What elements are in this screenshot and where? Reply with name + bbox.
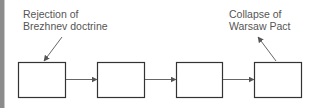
flow-box-1	[19, 63, 66, 98]
annotation-line-1: Collapse of	[229, 8, 290, 20]
annotation-line-1: Rejection of	[23, 8, 108, 20]
annotation-line-2: Brezhnev doctrine	[23, 20, 108, 32]
annotation-warsaw-pact: Collapse of Warsaw Pact	[229, 8, 290, 32]
flow-box-2	[98, 63, 145, 98]
leader-arrow-brezhnev	[44, 37, 62, 61]
annotation-line-2: Warsaw Pact	[229, 20, 290, 32]
leader-arrow-warsaw	[258, 37, 276, 61]
flow-box-4	[255, 63, 302, 98]
flow-box-3	[177, 63, 223, 98]
annotation-brezhnev-doctrine: Rejection of Brezhnev doctrine	[23, 8, 108, 32]
